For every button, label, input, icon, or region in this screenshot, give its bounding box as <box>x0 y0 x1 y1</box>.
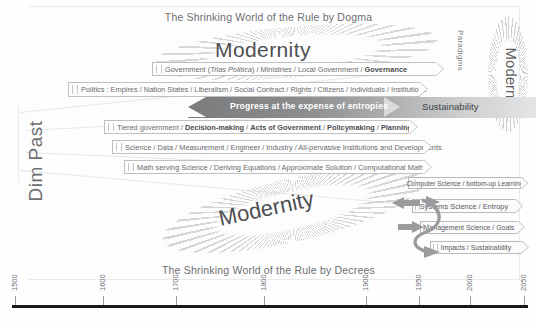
axis-tick <box>15 296 16 305</box>
bar-science-label: Science / Data / Measurement / Engineer … <box>125 143 442 152</box>
chevron-right-icon <box>423 160 431 174</box>
bar-grip <box>72 85 78 94</box>
chevron-right-icon <box>419 82 427 96</box>
box-computer-science-label: Computer Science / bottom-up Learning <box>407 180 524 187</box>
bar-grip <box>128 163 134 171</box>
axis-tick <box>103 296 104 305</box>
chevron-right-icon <box>521 177 527 189</box>
axis-tick <box>470 296 471 305</box>
axis-tick-label: 1700 <box>171 274 180 291</box>
axis-tick <box>524 296 525 305</box>
bar-science[interactable]: Science / Data / Measurement / Engineer … <box>112 140 424 154</box>
bar-tiered-government-label: Tiered government / Decision-making / Ac… <box>117 123 412 132</box>
sustainability-label: Sustainability <box>422 101 479 112</box>
modernity-top-label: Modernity <box>215 38 311 62</box>
chevron-right-icon <box>423 140 431 154</box>
axis-tick-label: 1950 <box>414 274 423 291</box>
diagram-canvas: The Shrinking World of the Rule by Dogma… <box>0 0 537 324</box>
axis-tick <box>366 296 367 305</box>
axis-tick <box>176 296 177 305</box>
band-notch-icon <box>188 97 206 117</box>
progress-sustainability-band[interactable]: Progress at the expense of entropies Sus… <box>188 97 536 118</box>
axis-tick <box>264 296 265 305</box>
bar-math-label: Math serving Science / Deriving Equation… <box>137 163 424 172</box>
axis-tick-label: 1800 <box>259 274 268 291</box>
axis-tick-label: 1500 <box>10 274 19 291</box>
bar-grip <box>116 143 122 151</box>
bar-government[interactable]: Government (Trias Politica) / Ministries… <box>152 62 436 76</box>
bar-grip <box>108 123 114 131</box>
chevron-right-icon <box>517 221 524 233</box>
chevron-right-icon <box>521 241 528 253</box>
modernity-right-label: Modernity <box>503 26 520 136</box>
chevron-right-icon <box>515 199 522 213</box>
progress-label: Progress at the expense of entropies <box>230 101 388 111</box>
axis-tick-label: 1900 <box>361 274 370 291</box>
bar-math[interactable]: Math serving Science / Deriving Equation… <box>124 160 424 174</box>
title-bottom: The Shrinking World of the Rule by Decre… <box>0 264 537 276</box>
timeline-axis <box>12 305 528 308</box>
left-axis-label-dim-past: Dim Past <box>25 101 47 221</box>
paradigms-label: Paradigms <box>456 21 465 81</box>
axis-tick <box>419 296 420 305</box>
arrow-right-management-icon <box>398 220 424 234</box>
chevron-right-icon <box>409 120 417 134</box>
bar-government-label: Government (Trias Politica) / Ministries… <box>165 65 407 74</box>
bar-politics-label: Politics : Empires / Nation States / Lib… <box>81 85 426 94</box>
box-computer-science[interactable]: Computer Science / bottom-up Learning <box>408 177 522 189</box>
chevron-right-icon <box>435 62 443 76</box>
axis-tick-label: 2000 <box>465 274 474 291</box>
axis-tick-label: 2050 <box>519 274 528 291</box>
axis-tick-label: 1600 <box>98 274 107 291</box>
box-grip <box>411 180 416 186</box>
arrow-left-systems-icon <box>392 196 420 210</box>
bar-tiered-government[interactable]: Tiered government / Decision-making / Ac… <box>104 120 410 134</box>
bar-politics[interactable]: Politics : Empires / Nation States / Lib… <box>68 82 420 97</box>
bar-grip <box>156 65 162 73</box>
